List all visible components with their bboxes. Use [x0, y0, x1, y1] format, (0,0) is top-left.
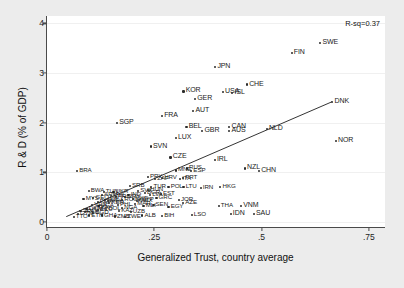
- point-label: THA: [221, 201, 233, 208]
- point-marker: [129, 185, 131, 187]
- point-label: FRA: [164, 111, 178, 119]
- point-label: NLD: [269, 124, 283, 132]
- r-squared-annotation: R-sq=0.37: [345, 19, 380, 28]
- x-tick-mark: [368, 227, 369, 231]
- point-marker: [218, 205, 220, 207]
- point-marker: [124, 196, 126, 198]
- point-label: ITA: [182, 174, 191, 181]
- point-label: IDN: [233, 209, 245, 217]
- x-tick-label: .5: [258, 232, 265, 242]
- point-label: BOL: [108, 204, 120, 211]
- y-tick-label: 4: [39, 18, 44, 28]
- point-label: SGP: [119, 118, 133, 126]
- point-label: ALB: [144, 211, 155, 218]
- point-marker: [222, 91, 224, 93]
- point-label: NOR: [338, 136, 353, 144]
- point-marker: [88, 190, 90, 192]
- point-marker: [185, 126, 187, 128]
- point-label: ZAF: [157, 174, 168, 181]
- point-label: CZE: [173, 152, 187, 160]
- point-marker: [335, 140, 337, 142]
- x-tick-mark: [261, 227, 262, 231]
- point-marker: [246, 83, 248, 85]
- y-tick-label: 3: [39, 68, 44, 78]
- point-label: HUN: [150, 185, 163, 192]
- point-label: FIN: [294, 48, 305, 56]
- point-label: GER: [197, 94, 212, 102]
- point-marker: [130, 211, 132, 213]
- y-tick-label: 0: [39, 217, 44, 227]
- point-label: SAU: [256, 209, 270, 217]
- point-marker: [152, 204, 154, 206]
- x-tick-label: .75: [363, 232, 375, 242]
- point-label: LTU: [186, 182, 197, 189]
- point-label: URY: [127, 192, 140, 199]
- point-label: LSO: [194, 210, 206, 217]
- point-label: SWE: [323, 38, 339, 46]
- point-marker: [82, 198, 84, 200]
- point-label: AUT: [196, 106, 210, 114]
- point-marker: [73, 216, 75, 218]
- point-label: TUN: [106, 187, 118, 194]
- point-label: UZB: [133, 207, 145, 214]
- point-label: SEN: [156, 200, 168, 207]
- point-label: IRL: [217, 155, 228, 163]
- point-label: ZMB: [117, 212, 130, 219]
- x-axis-label: Generalized Trust, country average: [46, 252, 385, 263]
- point-marker: [230, 213, 232, 215]
- point-label: CYP: [141, 195, 153, 202]
- point-marker: [169, 156, 171, 158]
- y-axis-label: R & D (% of GDP): [17, 22, 28, 234]
- point-marker: [97, 209, 99, 211]
- point-label: BRA: [79, 166, 91, 173]
- plot-area: SWEFINJPNCHEKORUSAISLGERDNKAUTFRASGPBELC…: [47, 16, 385, 227]
- point-label: HKG: [223, 182, 236, 189]
- point-label: CHN: [261, 166, 276, 174]
- point-label: JPN: [217, 62, 230, 70]
- point-label: BIH: [164, 211, 174, 218]
- x-tick-mark: [46, 227, 47, 231]
- point-label: DNK: [335, 97, 349, 105]
- point-label: EGY: [171, 202, 184, 209]
- point-label: LUX: [178, 133, 191, 141]
- point-marker: [258, 170, 260, 172]
- x-tick-label: .25: [148, 232, 160, 242]
- point-label: POL: [171, 182, 183, 189]
- point-marker: [191, 214, 193, 216]
- point-marker: [175, 169, 177, 171]
- point-marker: [167, 186, 169, 188]
- point-label: VNM: [243, 201, 258, 209]
- point-marker: [150, 145, 152, 147]
- point-label: GTM: [80, 209, 93, 216]
- point-label: JOR: [181, 195, 193, 202]
- point-marker: [114, 215, 116, 217]
- point-label: IRN: [203, 183, 213, 190]
- point-label: GRC: [159, 193, 172, 200]
- plot-canvas: SWEFINJPNCHEKORUSAISLGERDNKAUTFRASGPBELC…: [46, 16, 385, 228]
- point-marker: [155, 197, 157, 199]
- point-label: CHE: [249, 80, 263, 88]
- point-label: MNE: [178, 165, 191, 172]
- figure-container: SWEFINJPNCHEKORUSAISLGERDNKAUTFRASGPBELC…: [0, 0, 404, 288]
- y-tick-label: 2: [39, 118, 44, 128]
- point-label: GBR: [205, 126, 220, 134]
- point-label: ESP: [193, 166, 205, 173]
- x-tick-label: 0: [45, 232, 50, 242]
- point-label: BEL: [189, 122, 202, 130]
- point-marker: [200, 187, 202, 189]
- x-tick-mark: [154, 227, 155, 231]
- point-marker: [214, 159, 216, 161]
- point-marker: [182, 90, 184, 92]
- point-marker: [244, 167, 246, 169]
- point-label: AUS: [232, 126, 246, 134]
- point-marker: [240, 205, 242, 207]
- point-label: SVN: [153, 142, 167, 150]
- point-marker: [161, 115, 163, 117]
- point-label: ISL: [235, 88, 245, 96]
- y-tick-label: 1: [39, 167, 44, 177]
- point-label: MDA: [110, 196, 123, 203]
